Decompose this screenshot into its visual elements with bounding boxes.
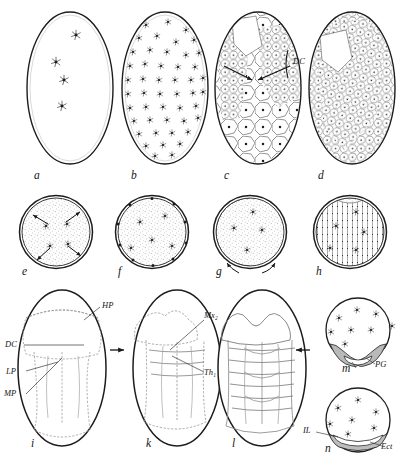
annotation-mx2: Mx₂ bbox=[204, 310, 218, 320]
figure-plate bbox=[0, 0, 409, 462]
annotation-hp: HP bbox=[102, 300, 113, 310]
panel-l bbox=[218, 290, 306, 446]
panel-letter-i: i bbox=[31, 437, 34, 449]
panel-letter-l: l bbox=[232, 437, 235, 449]
egg-outline-b bbox=[122, 12, 208, 164]
panel-f bbox=[116, 196, 189, 269]
panel-a bbox=[27, 12, 113, 164]
panel-letter-e: e bbox=[22, 265, 27, 277]
panel-letter-d: d bbox=[318, 169, 324, 181]
panel-letter-m: m bbox=[342, 362, 350, 374]
annotation-dc-i: DC bbox=[5, 339, 17, 349]
panel-letter-a: a bbox=[34, 169, 40, 181]
panel-letter-n: n bbox=[325, 442, 331, 454]
annotation-lp: LP bbox=[6, 366, 16, 376]
panel-b bbox=[122, 12, 208, 164]
panel-letter-k: k bbox=[146, 437, 151, 449]
annotation-pg: PG bbox=[375, 359, 386, 369]
annotation-dc-top: DC bbox=[293, 56, 305, 66]
annotation-mp: MP bbox=[4, 388, 16, 398]
egg-outline-a bbox=[27, 12, 113, 164]
panel-i bbox=[18, 290, 106, 446]
annotation-il: IL bbox=[303, 425, 311, 435]
panel-letter-g: g bbox=[216, 265, 222, 277]
panel-letter-f: f bbox=[118, 265, 121, 277]
panel-letter-h: h bbox=[316, 265, 322, 277]
panel-e bbox=[20, 196, 93, 269]
annotation-th1: Th₁ bbox=[204, 367, 216, 377]
annotation-ect: Ect bbox=[381, 441, 392, 451]
panel-letter-c: c bbox=[224, 169, 229, 181]
panel-letter-b: b bbox=[131, 169, 137, 181]
